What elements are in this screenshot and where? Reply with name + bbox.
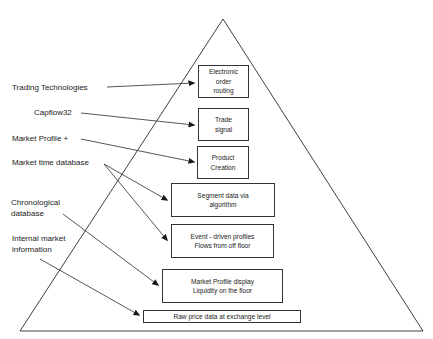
- source-label-internal-market-information: Internal marketinformation: [12, 233, 65, 255]
- arrow-market-time-database-to-segment-data: [104, 164, 167, 200]
- level-box-product-creation: ProductCreation: [197, 146, 249, 179]
- level-text: algorithm: [197, 200, 248, 210]
- level-box-trade-signal: Tradesignal: [198, 108, 249, 141]
- level-text: order: [209, 77, 238, 87]
- level-text: routing: [209, 86, 238, 96]
- arrow-market-profile-plus-to-product-creation: [81, 139, 194, 162]
- level-text: Trade: [215, 115, 232, 125]
- level-text: Segment data via: [197, 191, 248, 201]
- source-text: Internal market: [12, 233, 65, 244]
- level-box-market-profile-display: Market Profile displayLiquidity on the f…: [162, 269, 283, 303]
- level-box-segment-data: Segment data viaalgorithm: [171, 183, 275, 217]
- source-text: Capflow32: [34, 107, 72, 118]
- level-box-electronic-order-routing: Electronicorderrouting: [198, 65, 249, 98]
- source-text: database: [11, 208, 60, 219]
- level-box-event-driven-profiles: Event - driven profilesFlows from off fl…: [171, 224, 274, 258]
- source-label-capflow32: Capflow32: [34, 107, 72, 118]
- level-text: signal: [215, 125, 232, 135]
- source-text: Market Profile +: [12, 133, 68, 144]
- level-box-raw-price-data: Raw price data at exchange level: [143, 310, 301, 323]
- arrow-internal-market-information-to-raw-price-data: [40, 259, 139, 315]
- source-label-chronological-database: Chronologicaldatabase: [11, 197, 60, 219]
- arrow-market-time-database-to-event-driven-profiles: [104, 164, 167, 240]
- source-text: Chronological: [11, 197, 60, 208]
- level-text: Market Profile display: [191, 277, 254, 287]
- arrow-capflow32-to-trade-signal: [81, 113, 194, 125]
- level-text: Flows from off floor: [191, 241, 255, 251]
- level-text: Liquidity on the floor: [191, 286, 254, 296]
- arrow-chronological-database-to-market-profile-display: [63, 214, 158, 285]
- level-text: Product: [211, 153, 236, 163]
- level-text: Raw price data at exchange level: [173, 312, 270, 322]
- source-label-trading-technologies: Trading Technologies: [12, 82, 88, 93]
- source-text: information: [12, 244, 65, 255]
- level-text: Creation: [211, 163, 236, 173]
- source-text: Trading Technologies: [12, 82, 88, 93]
- source-label-market-time-database: Market time database: [12, 157, 89, 168]
- source-label-market-profile-plus: Market Profile +: [12, 133, 68, 144]
- source-text: Market time database: [12, 157, 89, 168]
- level-text: Electronic: [209, 67, 238, 77]
- arrow-trading-technologies-to-electronic-order-routing: [107, 83, 194, 87]
- level-text: Event - driven profiles: [191, 232, 255, 242]
